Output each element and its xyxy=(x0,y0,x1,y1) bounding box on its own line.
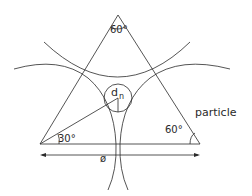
particle-label: particle xyxy=(195,106,237,119)
apex-angle-label: 60° xyxy=(110,24,128,35)
diameter-symbol: ø xyxy=(100,153,106,164)
left-angle-label: 30° xyxy=(58,133,76,144)
particle-arc-left xyxy=(14,64,116,190)
pore-diameter-label: d xyxy=(111,86,118,99)
pore-geometry-diagram: 60° 30° 60° d n particle ø xyxy=(0,0,252,196)
pore-diameter-subscript: n xyxy=(119,92,124,101)
particle-arc-top xyxy=(44,42,190,77)
bisector-line xyxy=(40,98,118,144)
right-angle-label: 60° xyxy=(165,124,183,135)
arrowhead-left xyxy=(40,153,46,157)
arrowhead-right xyxy=(194,153,200,157)
